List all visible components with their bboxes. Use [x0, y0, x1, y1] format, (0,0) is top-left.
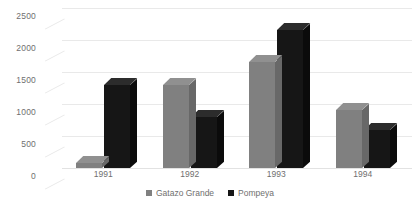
bar-side-face [275, 56, 282, 168]
plot-area [40, 8, 412, 168]
bar-group [249, 8, 303, 168]
legend-swatch-icon [146, 190, 152, 196]
bar [76, 163, 102, 168]
y-axis-tick-label: 0 [2, 172, 36, 181]
bar-front-face [249, 62, 275, 168]
chart-container: 05001000150020002500 1991199219931994 Ga… [0, 0, 420, 217]
bar-side-face [390, 123, 397, 168]
x-axis-tick-label: 1994 [353, 170, 372, 179]
legend-label: Pompeya [238, 189, 274, 198]
gridline-riser [45, 114, 65, 125]
bar-front-face [76, 163, 102, 168]
bar [336, 110, 362, 168]
chart-legend: Gatazo GrandePompeya [0, 189, 420, 198]
gridline-riser [45, 146, 65, 157]
gridline-riser [45, 50, 65, 61]
x-axis-tick-label: 1993 [267, 170, 286, 179]
bar-side-face [217, 111, 224, 168]
bar [163, 85, 189, 168]
bar-side-face [362, 104, 369, 168]
y-axis-tick-label: 1500 [2, 76, 36, 85]
bar-group [336, 8, 390, 168]
legend-swatch-icon [228, 190, 234, 196]
y-axis-tick-label: 2500 [2, 12, 36, 21]
bar-side-face [303, 24, 310, 168]
x-axis: 1991199219931994 [40, 170, 412, 184]
gridline-riser [45, 18, 65, 29]
gridline-riser [45, 82, 65, 93]
bar-group [76, 8, 130, 168]
y-axis-tick-label: 1000 [2, 108, 36, 117]
x-axis-tick-label: 1991 [94, 170, 113, 179]
bar-group [163, 8, 217, 168]
x-axis-tick-label: 1992 [180, 170, 199, 179]
bar-front-face [163, 85, 189, 168]
legend-item[interactable]: Gatazo Grande [146, 189, 214, 198]
bar-side-face [189, 79, 196, 168]
legend-label: Gatazo Grande [156, 189, 214, 198]
bar [249, 62, 275, 168]
y-axis-tick-label: 500 [2, 140, 36, 149]
legend-item[interactable]: Pompeya [228, 189, 274, 198]
bar-front-face [336, 110, 362, 168]
y-axis-tick-label: 2000 [2, 44, 36, 53]
bar-side-face [130, 79, 137, 168]
y-axis: 05001000150020002500 [0, 8, 36, 168]
